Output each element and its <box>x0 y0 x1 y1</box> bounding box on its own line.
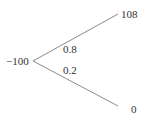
root-value: −100 <box>6 56 29 67</box>
lower-branch-probability: 0.2 <box>63 65 77 76</box>
upper-outcome-value: 108 <box>121 9 138 20</box>
upper-branch-probability: 0.8 <box>63 44 77 55</box>
lower-outcome-value: 0 <box>131 104 137 115</box>
